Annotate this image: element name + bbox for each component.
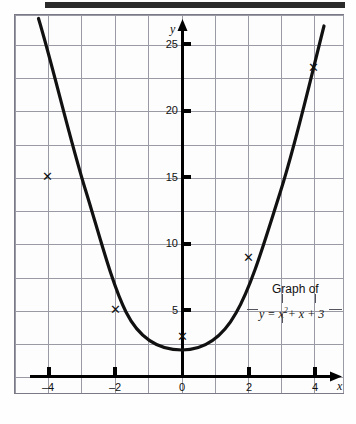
x-tick-label-2: 2: [234, 382, 264, 393]
figure-page: 25 20 15 10 5 y –4 –2 0 2 4 x ✕ ✕ ✕ ✕ ✕ …: [0, 0, 356, 424]
x-axis-label: x: [337, 379, 342, 394]
equation-equals: =: [267, 307, 275, 321]
annotation-leader-line: [282, 314, 283, 323]
gridline-horizontal: [15, 15, 343, 16]
annotation-leader-line: [247, 309, 258, 310]
gridline-vertical: [48, 15, 49, 393]
equation-remainder: + x + 3: [288, 307, 325, 321]
data-point-marker: ✕: [243, 251, 254, 264]
data-point-marker: ✕: [177, 330, 188, 343]
y-tick-label-10: 10: [158, 238, 178, 249]
annotation-leader-line: [315, 294, 316, 303]
y-tick-label-5: 5: [158, 305, 178, 316]
gridline-vertical: [148, 15, 149, 393]
y-tick-label-25: 25: [158, 39, 178, 50]
scan-edge-bar: [45, 2, 345, 8]
gridline-horizontal: [15, 178, 343, 179]
annotation-leader-line: [329, 309, 342, 310]
annotation-equation: y = x2+ x + 3: [259, 304, 324, 321]
data-point-marker: ✕: [42, 170, 53, 183]
y-tick-label-20: 20: [158, 105, 178, 116]
annotation-title: Graph of: [272, 283, 319, 296]
x-tick-label-4: 4: [300, 382, 330, 393]
gridline-horizontal: [15, 211, 343, 212]
gridline-horizontal: [15, 344, 343, 345]
y-tick-5: [182, 308, 191, 312]
gridline-horizontal: [15, 111, 343, 112]
y-tick-15: [182, 175, 191, 179]
y-axis-line: [181, 26, 184, 376]
gridline-vertical: [215, 15, 216, 393]
x-tick-label-minus4: –4: [33, 382, 63, 393]
gridline-horizontal: [15, 45, 343, 46]
y-tick-label-15: 15: [158, 172, 178, 183]
equation-lhs: y: [259, 307, 264, 321]
data-point-marker: ✕: [110, 303, 121, 316]
gridline-vertical: [115, 15, 116, 393]
gridline-horizontal: [15, 244, 343, 245]
y-tick-25: [182, 42, 191, 46]
gridline-horizontal: [15, 145, 343, 146]
gridline-horizontal: [15, 278, 343, 279]
data-point-marker: ✕: [308, 61, 319, 74]
x-tick-2: [247, 367, 251, 376]
annotation-leader-line: [282, 294, 283, 303]
y-tick-20: [182, 109, 191, 113]
gridline-vertical: [248, 15, 249, 393]
gridline-vertical: [343, 15, 344, 393]
y-tick-10: [182, 242, 191, 246]
x-axis-line: [30, 375, 335, 378]
gridline-vertical: [281, 15, 282, 393]
x-tick-minus4: [47, 367, 51, 376]
gridline-vertical: [15, 15, 16, 393]
gridline-horizontal: [15, 78, 343, 79]
x-tick-label-minus2: –2: [100, 382, 130, 393]
x-tick-minus2: [113, 367, 117, 376]
x-tick-4: [313, 367, 317, 376]
gridline-vertical: [81, 15, 82, 393]
y-axis-label: y: [170, 22, 175, 37]
x-tick-label-0: 0: [167, 382, 197, 393]
